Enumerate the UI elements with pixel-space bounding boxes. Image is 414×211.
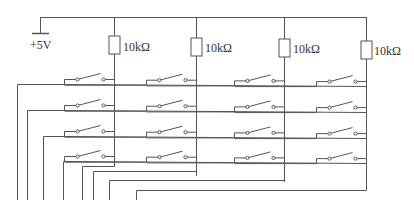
resistor-label-1: 10kΩ xyxy=(123,41,150,53)
supply-label: +5V xyxy=(30,39,51,51)
resistor-label-2: 10kΩ xyxy=(205,42,232,54)
column-output-wires xyxy=(83,162,367,200)
resistor-label-3: 10kΩ xyxy=(293,43,320,55)
resistor-label-4: 10kΩ xyxy=(374,45,401,57)
keypad-matrix-diagram xyxy=(0,0,414,211)
row-output-wires xyxy=(18,85,65,201)
